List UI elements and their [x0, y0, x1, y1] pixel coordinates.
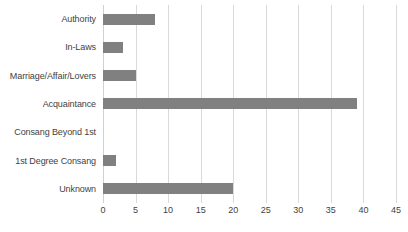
category-label: In-Laws [0, 33, 100, 61]
category-label-text: Marriage/Affair/Lovers [10, 71, 96, 81]
bar [103, 14, 155, 25]
bar-row [103, 62, 396, 90]
category-label-text: Acquaintance [43, 99, 96, 109]
category-label-text: Unknown [59, 184, 96, 194]
bar-row [103, 118, 396, 146]
tick-label: 20 [228, 205, 238, 215]
bar-row [103, 33, 396, 61]
category-label-text: Consang Beyond 1st [14, 127, 96, 137]
bars-layer [103, 5, 396, 203]
tick-label: 40 [358, 205, 368, 215]
bar [103, 42, 123, 53]
tick-label: 0 [100, 205, 105, 215]
tick-label: 35 [326, 205, 336, 215]
bar [103, 98, 357, 109]
category-label-text: 1st Degree Consang [15, 156, 96, 166]
category-label: Unknown [0, 175, 100, 203]
bar-row [103, 175, 396, 203]
value-axis: 051015202530354045 [103, 203, 396, 223]
bar [103, 70, 136, 81]
category-label: 1st Degree Consang [0, 146, 100, 174]
bar-chart: AuthorityIn-LawsMarriage/Affair/LoversAc… [0, 0, 408, 232]
tick-label: 45 [391, 205, 401, 215]
category-label: Acquaintance [0, 90, 100, 118]
tick-label: 10 [163, 205, 173, 215]
tick-label: 15 [196, 205, 206, 215]
category-label: Marriage/Affair/Lovers [0, 62, 100, 90]
category-label-text: Authority [61, 14, 96, 24]
gridline [396, 5, 397, 203]
bar [103, 155, 116, 166]
tick-label: 25 [261, 205, 271, 215]
category-label-text: In-Laws [65, 42, 96, 52]
bar-row [103, 90, 396, 118]
plot-area [103, 5, 396, 203]
category-label: Consang Beyond 1st [0, 118, 100, 146]
category-label: Authority [0, 5, 100, 33]
tick-label: 30 [293, 205, 303, 215]
bar [103, 183, 233, 194]
tick-label: 5 [133, 205, 138, 215]
category-axis: AuthorityIn-LawsMarriage/Affair/LoversAc… [0, 5, 100, 203]
bar-row [103, 146, 396, 174]
bar-row [103, 5, 396, 33]
